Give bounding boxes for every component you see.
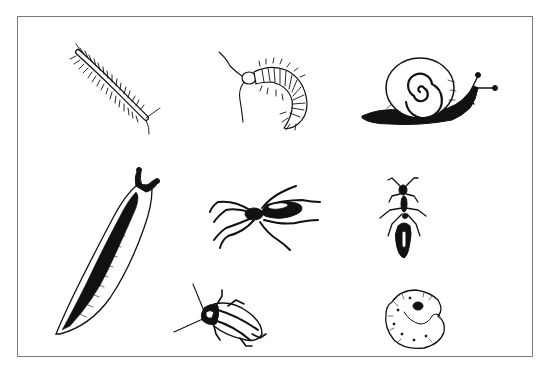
beetle-icon <box>174 284 266 346</box>
slug-icon <box>56 168 160 335</box>
ant-icon <box>380 178 426 258</box>
grub-icon <box>386 290 445 348</box>
millipede-icon <box>70 44 160 134</box>
centipede-icon <box>219 52 307 130</box>
creatures-canvas <box>0 0 550 371</box>
spider-icon <box>210 186 320 250</box>
snail-icon <box>362 58 498 125</box>
